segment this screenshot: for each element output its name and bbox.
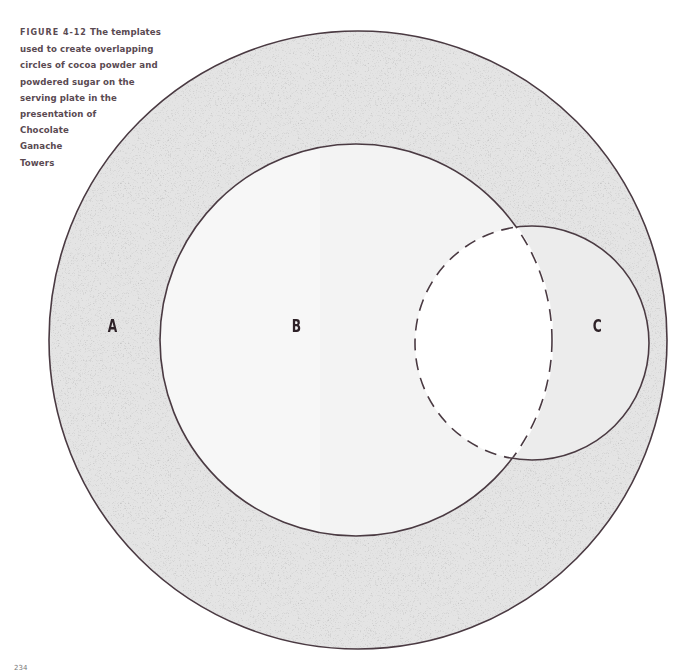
caption-line-7: Chocolate [20,125,69,135]
figure-label: FIGURE 4-12 [20,28,87,37]
caption-line-3: circles of cocoa powder and [20,60,158,70]
label-b: B [292,316,301,336]
figure-caption: FIGURE 4-12 The templates used to create… [20,24,170,171]
caption-line-2: used to create overlapping [20,44,154,54]
label-a: A [108,316,117,336]
caption-line-4: powdered sugar on the [20,77,135,87]
caption-line-5: serving plate in the [20,93,117,103]
label-c: C [593,316,602,336]
page-number: 234 [14,664,27,672]
caption-line-8: Ganache [20,141,63,151]
caption-line-6: presentation of [20,109,96,119]
caption-line-9: Towers [20,158,54,168]
caption-line-1: The templates [90,27,161,37]
